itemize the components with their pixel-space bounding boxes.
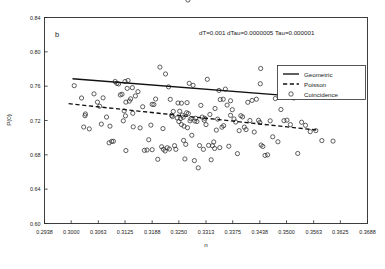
x-axis-tickmarks <box>45 220 368 223</box>
scatter-point <box>124 148 128 152</box>
y-tick-label: 0.84 <box>30 15 41 21</box>
scatter-point <box>72 84 76 88</box>
y-axis-tick-labels: 0.600.640.680.720.760.800.84 <box>30 15 41 227</box>
scatter-point <box>101 96 105 100</box>
scatter-point <box>133 94 137 98</box>
scatter-point <box>300 120 304 124</box>
scatter-point <box>184 142 188 146</box>
scatter-point <box>227 144 231 148</box>
scatter-point <box>268 119 272 123</box>
x-tick-label: 0.3500 <box>278 229 295 235</box>
scatter-point <box>190 133 194 137</box>
x-axis-tick-labels: 0.29380.30000.30630.31250.31880.32500.33… <box>36 229 376 235</box>
x-tick-label: 0.3688 <box>359 229 376 235</box>
x-tick-label: 0.3000 <box>63 229 80 235</box>
scatter-point <box>87 127 91 131</box>
panel-label: b <box>55 30 59 39</box>
scatter-point <box>208 112 212 116</box>
scatter-point <box>237 129 241 133</box>
scatter-point <box>82 125 86 129</box>
scatter-point <box>218 146 222 150</box>
scatter-point <box>95 100 99 104</box>
scatter-point <box>235 152 239 156</box>
scatter-point <box>214 128 218 132</box>
scatter-point <box>246 100 250 104</box>
scatter-point <box>308 130 312 134</box>
scatter-point <box>228 113 232 117</box>
scatter-point <box>185 101 189 105</box>
scatter-point <box>163 72 167 76</box>
scatter-point <box>228 99 232 103</box>
scatter-point <box>212 140 216 144</box>
scatter-point <box>192 158 196 162</box>
scatter-point <box>131 111 135 115</box>
legend-label-geometric: Geometric <box>304 71 333 78</box>
x-tick-label: 0.2938 <box>36 229 53 235</box>
scatter-point <box>158 65 162 69</box>
scatter-point <box>186 0 190 2</box>
scatter-point <box>104 115 108 119</box>
x-tick-label: 0.3250 <box>171 229 188 235</box>
scatter-point <box>320 138 324 142</box>
scatter-point <box>108 124 112 128</box>
scatter-point <box>182 138 186 142</box>
scatter-point <box>230 108 234 112</box>
x-tick-label: 0.3125 <box>117 229 134 235</box>
x-tick-label: 0.3438 <box>252 229 269 235</box>
scatter-point <box>259 66 263 70</box>
scatter-point <box>183 157 187 161</box>
legend-label-coincidence: Coincidence <box>304 91 339 98</box>
y-tick-label: 0.80 <box>30 49 41 55</box>
scatter-point <box>131 125 135 129</box>
parameter-annotation: dT=0.001 dTau=0.0000005 Tau=0.000001 <box>199 29 315 36</box>
scatter-point <box>213 146 217 150</box>
x-axis-title: n <box>204 241 208 248</box>
y-tick-label: 0.68 <box>30 152 41 158</box>
scatter-point <box>303 123 307 127</box>
scatter-point <box>213 106 217 110</box>
scatter-point <box>204 123 208 127</box>
scatter-point <box>265 153 269 157</box>
scatter-point <box>171 109 175 113</box>
scatter-point <box>205 77 209 81</box>
scatter-point <box>121 119 125 123</box>
scatter-point <box>185 126 189 130</box>
scatter-point <box>331 139 335 143</box>
y-tick-label: 0.72 <box>30 118 41 124</box>
scatter-point <box>79 96 83 100</box>
x-tick-label: 0.3063 <box>90 229 107 235</box>
scatter-point <box>147 138 151 142</box>
scatter-point <box>209 158 213 162</box>
scatter-point <box>196 166 200 170</box>
y-tick-label: 0.60 <box>30 221 41 227</box>
scatter-point <box>248 118 252 122</box>
scatter-point <box>149 123 153 127</box>
scatter-point <box>276 140 280 144</box>
scatter-point <box>154 97 158 101</box>
scatter-point <box>92 92 96 96</box>
scatter-point <box>279 107 283 111</box>
scatter-point <box>99 122 103 126</box>
scatter-point <box>178 109 182 113</box>
y-tick-label: 0.76 <box>30 83 41 89</box>
scatter-point <box>225 103 229 107</box>
scatter-point <box>125 86 129 90</box>
scatter-point <box>191 83 195 87</box>
scatter-point <box>161 126 165 130</box>
scatter-point <box>221 97 225 101</box>
figure-panel-b: 0.29380.30000.30630.31250.31880.32500.33… <box>0 0 385 269</box>
scatter-point <box>174 147 178 151</box>
scatter-point <box>138 126 142 130</box>
scatter-point <box>273 96 277 100</box>
scatter-point <box>258 82 262 86</box>
scatter-point <box>168 97 172 101</box>
scatter-point <box>199 103 203 107</box>
scatter-point <box>201 147 205 151</box>
x-tick-label: 0.3188 <box>144 229 161 235</box>
legend-label-poisson: Poisson <box>304 81 327 88</box>
scatter-point <box>123 114 127 118</box>
scatter-point <box>145 148 149 152</box>
y-axis-title: P(0) <box>5 114 12 126</box>
scatter-point <box>156 157 160 161</box>
scatter-point <box>197 143 201 147</box>
